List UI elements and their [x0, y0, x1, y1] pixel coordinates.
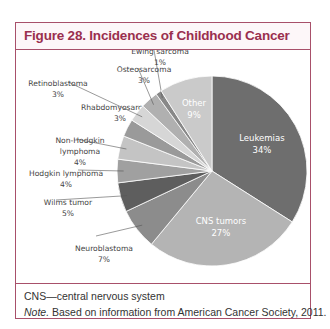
svg-text:3%: 3%	[114, 114, 126, 123]
svg-text:lymphoma: lymphoma	[60, 147, 100, 156]
svg-text:27%: 27%	[211, 228, 230, 238]
figure-frame: Figure 28. Incidences of Childhood Cance…	[15, 22, 311, 319]
svg-text:4%: 4%	[74, 158, 86, 167]
pie-chart: Leukemias34%CNS tumors27%Neuroblastoma7%…	[16, 50, 312, 283]
svg-text:3%: 3%	[138, 76, 150, 85]
svg-text:Neuroblastoma: Neuroblastoma	[75, 244, 133, 253]
svg-text:Wilms tumor: Wilms tumor	[44, 198, 93, 207]
slice-label: Wilms tumor5%	[44, 198, 93, 218]
slice-label: Osteosarcoma3%	[117, 65, 172, 85]
note-label: Note.	[24, 306, 49, 318]
figure-title: Figure 28. Incidences of Childhood Cance…	[24, 28, 290, 43]
svg-text:Other: Other	[182, 98, 207, 108]
leader-line	[96, 225, 142, 236]
slice-label: Retinoblastoma3%	[28, 79, 87, 99]
svg-text:7%: 7%	[98, 255, 110, 264]
svg-text:1%: 1%	[154, 58, 166, 67]
svg-text:3%: 3%	[52, 90, 64, 99]
slice-label: Neuroblastoma7%	[75, 244, 133, 264]
svg-text:Non-Hodgkin: Non-Hodgkin	[55, 136, 104, 145]
svg-text:4%: 4%	[60, 180, 72, 189]
svg-text:34%: 34%	[252, 145, 271, 155]
svg-text:CNS tumors: CNS tumors	[196, 216, 247, 226]
pie-chart-area: Leukemias34%CNS tumors27%Neuroblastoma7%…	[16, 50, 310, 283]
svg-text:5%: 5%	[62, 209, 74, 218]
note-text: Based on information from American Cance…	[49, 306, 326, 318]
slice-label: Non-Hodgkinlymphoma4%	[55, 136, 104, 167]
svg-text:Hodgkin lymphoma: Hodgkin lymphoma	[29, 169, 103, 178]
svg-text:Ewing sarcoma: Ewing sarcoma	[131, 50, 189, 56]
figure-footer: CNS—central nervous system Note. Based o…	[16, 283, 310, 318]
slice-label: Hodgkin lymphoma4%	[29, 169, 103, 189]
svg-text:Leukemias: Leukemias	[239, 133, 285, 143]
source-note: Note. Based on information from American…	[24, 306, 327, 318]
svg-text:9%: 9%	[187, 110, 201, 120]
svg-text:Retinoblastoma: Retinoblastoma	[28, 79, 87, 88]
abbreviation-note: CNS—central nervous system	[24, 290, 165, 302]
figure-title-bar: Figure 28. Incidences of Childhood Cance…	[16, 23, 310, 50]
